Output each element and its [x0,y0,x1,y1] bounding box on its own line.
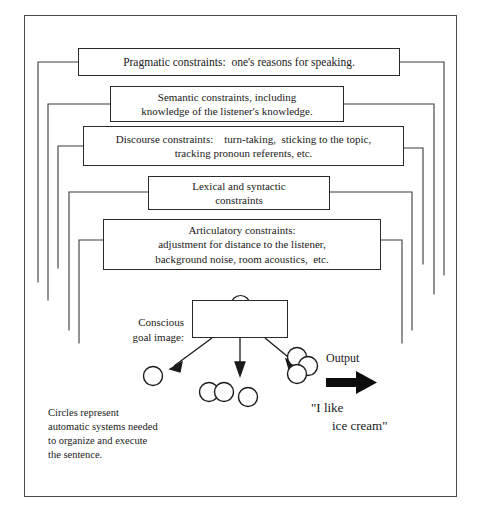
constraint-line: background noise, room acoustics, etc. [155,252,329,266]
constraint-line: adjustment for distance to the listener, [158,237,326,251]
conscious-goal-label-line2: goal image: [132,331,184,343]
arrow-mid-head [235,362,245,376]
caption-line: to organize and execute [48,434,228,448]
bracket-right-discourse [404,148,423,264]
output-label: Output [326,351,359,366]
bracket-left-articulatory [79,240,103,343]
bracket-right-articulatory [381,240,402,343]
constraint-line: Lexical and syntactic [192,179,285,193]
conscious-goal-image-box[interactable] [192,300,288,338]
constraint-box-articulatory[interactable]: Articulatory constraints: adjustment for… [103,219,381,270]
constraint-box-lexical-syntactic[interactable]: Lexical and syntactic constraints [148,176,330,210]
utterance-line1: "I like [311,400,343,416]
conscious-goal-label-line1: Conscious [138,316,184,328]
output-arrow [326,371,377,394]
caption-line: Circles represent [48,406,228,420]
utterance-line2: ice cream" [332,418,387,434]
constraint-line: knowledge of the listener's knowledge. [141,104,313,118]
constraint-line: constraints [215,193,263,207]
arrow-left-head [170,362,182,372]
circle-3 [215,383,234,402]
caption-line: automatic systems needed [48,420,228,434]
bracket-right-pragmatic [400,62,444,275]
constraint-box-discourse[interactable]: Discourse constraints: turn-taking, stic… [83,126,404,166]
legend-caption: Circles represent automatic systems need… [48,406,228,461]
constraint-line: Discourse constraints: turn-taking, stic… [116,132,371,146]
circle-1 [144,367,163,386]
caption-line: the sentence. [48,448,228,462]
circle-4 [239,388,258,407]
circle-7 [288,365,307,384]
goal-arrows [170,338,298,376]
diagram-page: Pragmatic constraints: one's reasons for… [0,0,482,520]
constraint-box-semantic[interactable]: Semantic constraints, including knowledg… [110,86,344,122]
constraint-line: Articulatory constraints: [188,223,295,237]
constraint-line: Pragmatic constraints: one's reasons for… [123,55,355,70]
constraint-line: Semantic constraints, including [158,90,296,104]
conscious-goal-label: Conscious goal image: [108,301,184,358]
constraint-line: tracking pronoun referents, etc. [175,146,313,160]
constraint-box-pragmatic[interactable]: Pragmatic constraints: one's reasons for… [78,48,400,76]
